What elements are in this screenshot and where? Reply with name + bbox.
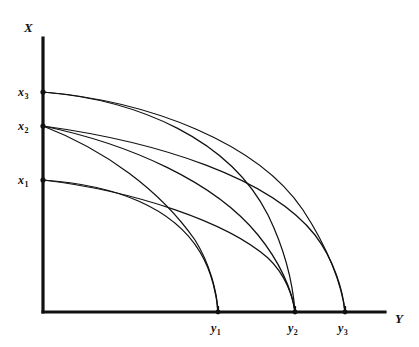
intercept-dot-y1 — [216, 310, 221, 315]
curve-x1-to-y2 — [43, 180, 295, 312]
curve-x3-to-y2 — [43, 92, 295, 312]
curve-group — [43, 92, 345, 312]
intercept-dot-y2 — [293, 310, 298, 315]
curve-x3-to-y3 — [43, 92, 345, 312]
tick-subscript: 3 — [344, 328, 348, 337]
tick-label-x1: x1 — [17, 173, 29, 189]
tick-label-y3: y3 — [336, 321, 348, 337]
tick-label-y1: y1 — [209, 321, 221, 337]
tick-label-x2: x2 — [17, 119, 29, 135]
axes-group — [43, 38, 385, 312]
curve-x2-to-y3 — [43, 126, 345, 312]
intercept-dot-x1 — [40, 177, 45, 182]
y-axis-label: Y — [395, 311, 404, 326]
tick-subscript: 1 — [25, 180, 29, 189]
plot-canvas: X Y x1x2x3y1y2y3 — [0, 0, 419, 347]
tick-label-x3: x3 — [17, 85, 29, 101]
curve-x1-to-y1 — [43, 180, 218, 312]
tick-subscript: 2 — [25, 126, 29, 135]
tick-subscript: 3 — [25, 92, 29, 101]
curve-x2-to-y1 — [43, 126, 218, 312]
intercept-dot-x2 — [40, 123, 45, 128]
intercept-dot-y3 — [343, 310, 348, 315]
x-axis-label: X — [23, 20, 33, 35]
ticks-group — [40, 89, 347, 314]
tick-subscript: 2 — [294, 328, 298, 337]
tick-subscript: 1 — [217, 328, 221, 337]
tick-label-y2: y2 — [286, 321, 298, 337]
labels-group: X Y x1x2x3y1y2y3 — [17, 20, 404, 337]
intercept-dot-x3 — [40, 89, 45, 94]
isoquant-figure: X Y x1x2x3y1y2y3 — [0, 0, 419, 347]
